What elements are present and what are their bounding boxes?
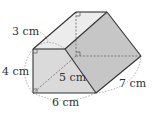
label-top-edge: 3 cm — [12, 25, 40, 38]
label-diagonal: 5 cm — [59, 71, 87, 84]
label-side: 7 cm — [119, 77, 147, 90]
prism-diagram: 3 cm 4 cm 5 cm 6 cm 7 cm — [0, 0, 156, 116]
label-bottom: 6 cm — [52, 96, 80, 109]
label-height: 4 cm — [2, 65, 30, 78]
